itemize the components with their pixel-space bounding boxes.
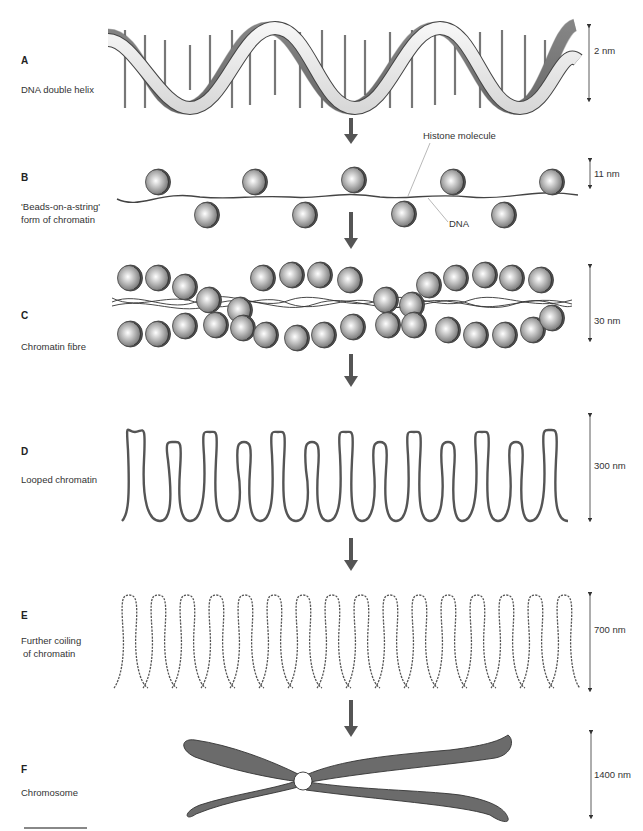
arrow-e-to-f-icon <box>344 700 358 737</box>
dna-double-helix <box>108 25 578 108</box>
arrow-c-to-d-icon <box>344 354 358 387</box>
chromatin-fibre <box>112 262 572 351</box>
beads-on-a-string <box>117 143 578 228</box>
looped-chromatin <box>122 430 568 521</box>
chromatin-diagram <box>0 0 643 831</box>
bottom-divider <box>24 827 87 829</box>
arrow-d-to-e-icon <box>344 538 358 571</box>
arrow-a-to-b-icon <box>344 118 358 144</box>
further-coiling-chromatin <box>114 595 580 688</box>
arrow-b-to-c-icon <box>344 212 358 249</box>
chromosome <box>184 735 512 822</box>
